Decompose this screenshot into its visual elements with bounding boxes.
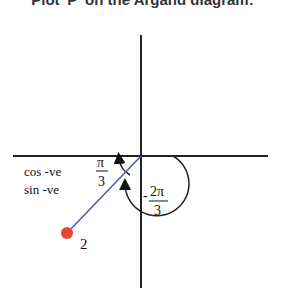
cos-label: cos -ve [24,164,61,179]
sin-label: sin -ve [24,182,59,197]
modulus-label: 2 [80,236,88,252]
pi-numerator: π [97,155,104,170]
argand-diagram: cos -ve sin -ve π 3 - 2π 3 2 [0,0,285,288]
modulus-line [68,156,141,232]
point-p [61,227,73,239]
neg-sign: - [143,188,148,203]
pi-denominator: 3 [98,174,105,189]
neg-angle-numerator: 2π [150,184,164,199]
neg-angle-denominator: 3 [154,203,161,218]
